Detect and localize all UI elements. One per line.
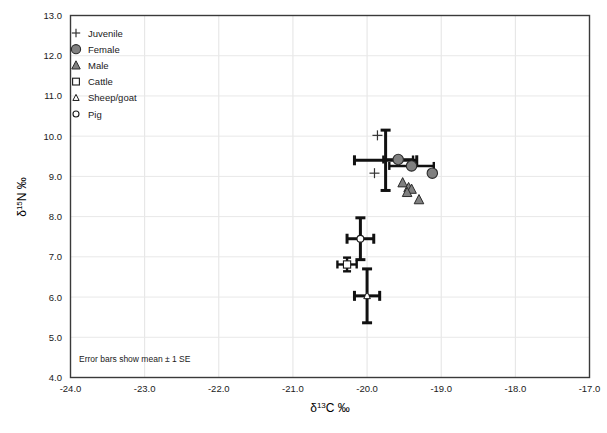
svg-text:Error bars show mean ± 1 SE: Error bars show mean ± 1 SE bbox=[79, 354, 191, 364]
annotation-note: Error bars show mean ± 1 SE bbox=[79, 354, 191, 364]
y-tick-label: 5.0 bbox=[49, 332, 62, 343]
legend-marker bbox=[71, 45, 80, 54]
x-tick-label: -20.0 bbox=[356, 383, 378, 394]
x-tick-label: -23.0 bbox=[134, 383, 156, 394]
y-tick-label: 7.0 bbox=[49, 251, 62, 262]
marker-center bbox=[346, 263, 349, 266]
x-tick-label: -19.0 bbox=[430, 383, 452, 394]
legend-label: Male bbox=[88, 60, 109, 71]
legend-label: Pig bbox=[88, 109, 102, 120]
x-tick-label: -17.0 bbox=[579, 383, 601, 394]
y-tick-label: 13.0 bbox=[44, 10, 63, 21]
legend-marker bbox=[73, 78, 80, 85]
y-tick-label: 11.0 bbox=[44, 90, 62, 101]
y-tick-label: 6.0 bbox=[49, 292, 62, 303]
circle-filled-icon bbox=[406, 161, 416, 171]
legend-label: Female bbox=[88, 44, 120, 55]
y-tick-label: 8.0 bbox=[49, 211, 62, 222]
data-point bbox=[427, 168, 437, 178]
circle-open-icon bbox=[73, 111, 79, 117]
marker-center bbox=[359, 237, 362, 240]
data-point bbox=[393, 154, 403, 164]
square-open-icon bbox=[73, 78, 80, 85]
x-tick-label: -18.0 bbox=[505, 383, 527, 394]
legend-item-female: Female bbox=[71, 44, 119, 55]
circle-filled-icon bbox=[393, 154, 403, 164]
y-tick-label: 12.0 bbox=[44, 50, 63, 61]
legend-label: Juvenile bbox=[88, 28, 123, 39]
x-axis-title: δ13C ‰ bbox=[310, 401, 350, 416]
x-tick-label: -21.0 bbox=[282, 383, 304, 394]
x-tick-label: -24.0 bbox=[60, 383, 82, 394]
circle-filled-icon bbox=[427, 168, 437, 178]
marker-center bbox=[366, 294, 369, 297]
chart-canvas: -24.0-23.0-22.0-21.0-20.0-19.0-18.0-17.0… bbox=[0, 0, 607, 433]
svg-text:δ15N ‰: δ15N ‰ bbox=[15, 177, 30, 217]
y-tick-label: 4.0 bbox=[49, 372, 62, 383]
legend-marker bbox=[73, 111, 79, 117]
y-tick-label: 9.0 bbox=[49, 171, 62, 182]
legend-item-cattle: Cattle bbox=[73, 76, 113, 87]
y-axis-title: δ15N ‰ bbox=[15, 177, 30, 217]
legend-label: Sheep/goat bbox=[88, 92, 137, 103]
y-tick-label: 10.0 bbox=[44, 131, 63, 142]
legend-label: Cattle bbox=[88, 76, 113, 87]
circle-filled-icon bbox=[71, 45, 80, 54]
data-point bbox=[406, 161, 416, 171]
x-tick-label: -22.0 bbox=[208, 383, 230, 394]
scatter-chart-figure: -24.0-23.0-22.0-21.0-20.0-19.0-18.0-17.0… bbox=[0, 0, 607, 433]
